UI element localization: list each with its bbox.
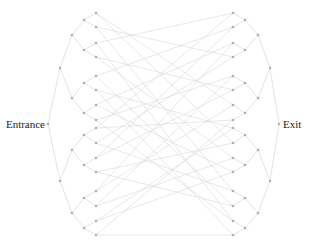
crossing-edge (96, 172, 233, 206)
tree-edge (48, 68, 60, 124)
right-tree-node (257, 97, 260, 100)
right-tree-node (232, 127, 235, 130)
tree-edge (84, 20, 96, 27)
tree-edge (84, 158, 96, 165)
right-tree-node (244, 82, 247, 85)
right-tree-node (244, 164, 247, 167)
crossing-edge (96, 13, 233, 43)
tree-edge (258, 181, 270, 213)
crossing-edge (96, 13, 233, 128)
tree-edge (233, 128, 245, 135)
right-tree-node (232, 171, 235, 174)
right-tree-node (232, 104, 235, 107)
crossing-edge (96, 143, 233, 172)
crossing-edge (96, 128, 233, 221)
tree-edge (84, 13, 96, 20)
right-tree-node (257, 149, 260, 152)
tree-edge (60, 181, 72, 213)
tree-edge (72, 150, 84, 165)
tree-edge (233, 158, 245, 165)
right-tree-node (269, 180, 272, 183)
right-tree-node (232, 89, 235, 92)
tree-edge (233, 50, 245, 57)
tree-edge (84, 105, 96, 113)
left-tree-node (95, 127, 98, 130)
tree-edge (84, 165, 96, 172)
left-tree-node (59, 67, 62, 70)
left-tree-node (95, 104, 98, 107)
left-tree-node (71, 34, 74, 37)
tree-edge (245, 98, 258, 113)
tree-edge (233, 43, 245, 50)
tree-edge (233, 191, 245, 198)
tree-edge (233, 198, 245, 206)
left-tree-node (83, 112, 86, 115)
left-tree-node (71, 97, 74, 100)
tree-edge (60, 68, 72, 98)
tree-edge (233, 105, 245, 113)
tree-edge (245, 20, 258, 35)
crossing-edge (96, 43, 233, 191)
right-tree-node (232, 119, 235, 122)
tree-edge (60, 150, 72, 181)
crossing-edge (96, 120, 233, 235)
tree-edge (84, 83, 96, 90)
entrance-node (47, 123, 50, 126)
right-tree-node (244, 227, 247, 230)
right-tree-node (244, 49, 247, 52)
left-tree-node (95, 56, 98, 59)
left-tree-node (83, 49, 86, 52)
crossing-edge (96, 120, 233, 221)
right-tree-node (244, 19, 247, 22)
tree-edge (48, 124, 60, 181)
tree-edge (258, 35, 270, 68)
tree-edge (233, 165, 245, 172)
left-tree-node (95, 190, 98, 193)
left-tree-node (83, 134, 86, 137)
tree-edge (233, 20, 245, 27)
left-tree-node (95, 205, 98, 208)
left-tree-node (59, 180, 62, 183)
left-tree-node (95, 42, 98, 45)
right-tree-node (232, 220, 235, 223)
tree-edge (270, 68, 279, 124)
tree-edge (245, 135, 258, 150)
right-tree-node (244, 134, 247, 137)
tree-edge (233, 228, 245, 235)
left-tree-node (71, 212, 74, 215)
left-tree-node (95, 157, 98, 160)
tree-edge (72, 98, 84, 113)
tree-edge (72, 35, 84, 50)
tree-edge (72, 83, 84, 98)
tree-edge (60, 35, 72, 68)
tree-edge (245, 83, 258, 98)
tree-edge (258, 150, 270, 181)
crossing-edge (96, 57, 233, 90)
tree-edge (84, 50, 96, 57)
right-tree-node (244, 197, 247, 200)
left-tree-node (95, 89, 98, 92)
glued-trees-diagram (0, 0, 311, 247)
crossing-edge (96, 13, 233, 105)
left-tree-node (95, 234, 98, 237)
tree-edge (84, 191, 96, 198)
left-tree-node (95, 220, 98, 223)
right-tree-node (232, 190, 235, 193)
left-tree-node (83, 164, 86, 167)
tree-edge (84, 221, 96, 228)
right-tree-node (232, 42, 235, 45)
tree-edge (233, 221, 245, 228)
tree-edge (258, 68, 270, 98)
tree-edge (84, 76, 96, 83)
tree-edge (233, 76, 245, 83)
tree-edge (233, 13, 245, 20)
tree-edge (233, 113, 245, 120)
entrance-label: Entrance (6, 118, 45, 130)
tree-edge (84, 43, 96, 50)
right-tree-node (244, 112, 247, 115)
right-tree-node (257, 212, 260, 215)
right-tree-node (232, 12, 235, 15)
left-tree-node (83, 227, 86, 230)
tree-edge (245, 150, 258, 165)
right-tree-node (232, 205, 235, 208)
